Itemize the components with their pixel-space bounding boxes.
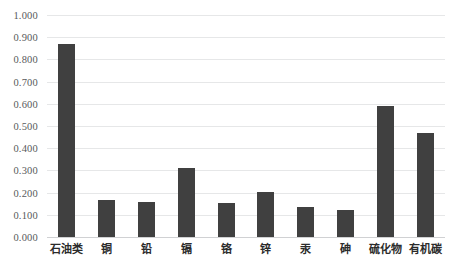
bar-slot bbox=[206, 15, 246, 237]
bar[interactable] bbox=[138, 202, 155, 237]
y-axis-tick-label: 0.000 bbox=[13, 232, 38, 243]
bar-chart: 1.0000.9000.8000.7000.6000.5000.4000.300… bbox=[0, 0, 453, 276]
x-axis-category-label: 锌 bbox=[260, 240, 271, 256]
x-axis-category-label: 铅 bbox=[141, 240, 152, 256]
y-axis-tick-label: 0.500 bbox=[13, 121, 38, 132]
x-axis-category-label: 有机碳 bbox=[409, 240, 442, 256]
x-axis-category-label: 砷 bbox=[340, 240, 351, 256]
x-axis-category-label: 硫化物 bbox=[369, 240, 402, 256]
x-label-slot: 锌 bbox=[246, 240, 286, 264]
y-axis-tick-label: 0.900 bbox=[13, 32, 38, 43]
y-axis-tick-label: 1.000 bbox=[13, 10, 38, 21]
y-axis-tick-label: 0.600 bbox=[13, 98, 38, 109]
y-axis-tick-label: 0.200 bbox=[13, 187, 38, 198]
y-axis-tick-label: 0.700 bbox=[13, 76, 38, 87]
bar-slot bbox=[87, 15, 127, 237]
x-label-slot: 镉 bbox=[166, 240, 206, 264]
y-axis-tick-label: 0.100 bbox=[13, 209, 38, 220]
x-label-slot: 铜 bbox=[87, 240, 127, 264]
x-axis-category-label: 铬 bbox=[221, 240, 232, 256]
bar[interactable] bbox=[257, 192, 274, 238]
x-label-slot: 有机碳 bbox=[405, 240, 445, 264]
x-axis-category-label: 汞 bbox=[300, 240, 311, 256]
axis-baseline bbox=[47, 237, 445, 238]
x-axis-category-label: 石油类 bbox=[50, 240, 83, 256]
bar[interactable] bbox=[218, 203, 235, 237]
x-axis-category-labels: 石油类铜铅镉铬锌汞砷硫化物有机碳 bbox=[47, 240, 445, 264]
bar[interactable] bbox=[58, 44, 75, 237]
bar[interactable] bbox=[417, 133, 434, 237]
bar[interactable] bbox=[98, 200, 115, 237]
y-axis-tick-label: 0.400 bbox=[13, 143, 38, 154]
bar-slot bbox=[405, 15, 445, 237]
bar[interactable] bbox=[178, 168, 195, 237]
plot-area bbox=[47, 15, 445, 237]
x-label-slot: 汞 bbox=[286, 240, 326, 264]
bar-slot bbox=[365, 15, 405, 237]
x-label-slot: 砷 bbox=[326, 240, 366, 264]
y-axis-tick-label: 0.300 bbox=[13, 165, 38, 176]
y-axis-tick-labels: 1.0000.9000.8000.7000.6000.5000.4000.300… bbox=[0, 15, 44, 237]
bar[interactable] bbox=[337, 210, 354, 237]
x-label-slot: 铅 bbox=[127, 240, 167, 264]
bar-slot bbox=[166, 15, 206, 237]
bar[interactable] bbox=[297, 207, 314, 237]
x-label-slot: 硫化物 bbox=[365, 240, 405, 264]
x-axis-category-label: 镉 bbox=[181, 240, 192, 256]
x-label-slot: 石油类 bbox=[47, 240, 87, 264]
bar-slot bbox=[127, 15, 167, 237]
bar-slot bbox=[286, 15, 326, 237]
bar-series bbox=[47, 15, 445, 237]
bar-slot bbox=[246, 15, 286, 237]
bar-slot bbox=[326, 15, 366, 237]
y-axis-tick-label: 0.800 bbox=[13, 54, 38, 65]
x-axis-category-label: 铜 bbox=[101, 240, 112, 256]
bar-slot bbox=[47, 15, 87, 237]
x-label-slot: 铬 bbox=[206, 240, 246, 264]
bar[interactable] bbox=[377, 106, 394, 237]
